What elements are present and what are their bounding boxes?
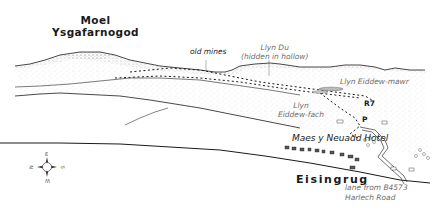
- compass-rose: [37, 157, 57, 177]
- compass-left-letter: N: [28, 165, 34, 169]
- lane-label-line2: Harlech Road: [345, 193, 408, 203]
- peak-label: Moel Ysgafarnogod: [52, 14, 139, 38]
- compass-top-letter: E: [45, 151, 48, 157]
- llyn-du-line1: Llyn Du: [241, 43, 308, 52]
- compass-right-letter: S: [60, 165, 66, 168]
- compass-bottom-letter: W: [45, 178, 50, 184]
- peak-label-line2: Ysgafarnogod: [52, 26, 139, 38]
- old-mines-label: old mines: [190, 48, 226, 56]
- lane-label: lane from B4573 Harlech Road: [345, 183, 408, 203]
- route-marker-label: R7: [364, 100, 375, 108]
- parking-marker: P: [362, 116, 368, 124]
- hotel-label: Maes y Neuadd Hotel: [292, 134, 388, 143]
- llyn-eiddew-fach-label: Llyn Eiddew-fach: [278, 101, 324, 119]
- llyn-eiddew-mawr-label: Llyn Eiddew-mawr: [340, 78, 409, 86]
- llyn-du-label: Llyn Du (hidden in hollow): [241, 43, 308, 61]
- llyn-eiddew-fach-line2: Eiddew-fach: [278, 110, 324, 119]
- lane-label-line1: lane from B4573: [345, 183, 408, 193]
- llyn-eiddew-fach-line1: Llyn: [278, 101, 324, 110]
- peak-label-line1: Moel: [52, 14, 139, 26]
- llyn-du-line2: (hidden in hollow): [241, 52, 308, 61]
